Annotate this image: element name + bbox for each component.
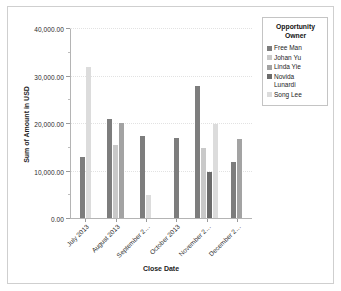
- legend-title-line2: Owner: [267, 31, 324, 40]
- bar[interactable]: [237, 139, 242, 219]
- y-axis-tick-label: 20,000.00: [34, 121, 64, 128]
- legend-item-label: Johan Yu: [274, 54, 301, 62]
- x-axis-tick: [85, 219, 86, 222]
- legend-item-label: Novida Lunardi: [274, 73, 296, 90]
- bar[interactable]: [86, 67, 91, 219]
- x-axis-tick: [116, 219, 117, 222]
- plot-inner: 0.0010,000.0020,000.0030,000.0040,000.00…: [70, 29, 252, 219]
- legend-item[interactable]: Linda Yie: [267, 63, 324, 71]
- legend-item[interactable]: Novida Lunardi: [267, 73, 324, 90]
- bar[interactable]: [207, 172, 212, 219]
- legend-item[interactable]: Free Man: [267, 44, 324, 52]
- x-axis-tick: [176, 219, 177, 222]
- y-axis-tick-label: 10,000.00: [34, 168, 64, 175]
- bar[interactable]: [140, 136, 145, 219]
- y-axis-title: Sum of Amount in USD: [20, 29, 32, 219]
- x-axis-tick: [237, 219, 238, 222]
- bar[interactable]: [146, 195, 151, 219]
- bar-group: [70, 29, 100, 219]
- legend-title-line1: Opportunity: [267, 22, 324, 31]
- x-axis-tick: [146, 219, 147, 222]
- legend-item-label: Linda Yie: [274, 63, 301, 71]
- legend-title: Opportunity Owner: [267, 22, 324, 40]
- legend-swatch-icon: [267, 92, 272, 97]
- legend-item[interactable]: Johan Yu: [267, 54, 324, 62]
- bar[interactable]: [174, 138, 179, 219]
- legend-items: Free ManJohan YuLinda YieNovida LunardiS…: [267, 44, 324, 99]
- legend-item-label: Song Lee: [274, 91, 302, 99]
- y-axis-title-text: Sum of Amount in USD: [23, 86, 30, 163]
- legend-item[interactable]: Song Lee: [267, 91, 324, 99]
- x-axis-tick: [207, 219, 208, 222]
- x-axis-line: [70, 218, 252, 219]
- y-axis-tick-label: 30,000.00: [34, 73, 64, 80]
- bar-group: [161, 29, 191, 219]
- legend-swatch-icon: [267, 65, 272, 70]
- chart-container: Sum of Amount in USD 0.0010,000.0020,000…: [7, 6, 334, 284]
- bar[interactable]: [201, 148, 206, 219]
- bar[interactable]: [195, 86, 200, 219]
- bar[interactable]: [119, 123, 124, 219]
- bar[interactable]: [231, 162, 236, 219]
- legend-swatch-icon: [267, 74, 272, 79]
- legend-swatch-icon: [267, 55, 272, 60]
- plot-area: 0.0010,000.0020,000.0030,000.0040,000.00…: [70, 29, 252, 219]
- bar-group: [131, 29, 161, 219]
- y-axis-tick-label: 0.00: [51, 216, 64, 223]
- x-axis-title: Close Date: [70, 265, 252, 272]
- bar-group: [100, 29, 130, 219]
- bar[interactable]: [80, 157, 85, 219]
- legend-item-label: Free Man: [274, 44, 302, 52]
- bar[interactable]: [113, 145, 118, 219]
- legend: Opportunity Owner Free ManJohan YuLinda …: [262, 17, 328, 106]
- bar[interactable]: [107, 119, 112, 219]
- y-axis-line: [70, 29, 71, 219]
- bar[interactable]: [213, 124, 218, 219]
- legend-swatch-icon: [267, 46, 272, 51]
- bar-group: [191, 29, 221, 219]
- bar-group: [222, 29, 252, 219]
- y-axis-tick-label: 40,000.00: [34, 26, 64, 33]
